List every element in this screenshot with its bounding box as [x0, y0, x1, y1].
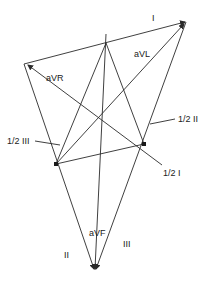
right-midpoint-dot — [142, 142, 146, 146]
einthoven-triangle-diagram: I aVL aVR 1/2 II 1/2 III 1/2 I aVF III I… — [0, 0, 210, 288]
label-lead-I: I — [152, 13, 155, 23]
label-lead-III: III — [123, 239, 131, 249]
label-half-II: 1/2 II — [178, 114, 198, 124]
label-lead-II: II — [64, 250, 69, 260]
label-aVF: aVF — [89, 228, 106, 238]
lead-II-vector — [24, 64, 94, 269]
apex-to-left-midpoint — [56, 43, 106, 164]
label-half-III: 1/2 III — [7, 136, 30, 146]
half-II-leader — [150, 119, 175, 124]
label-aVL: aVL — [134, 49, 150, 59]
half-III-leader — [35, 141, 60, 145]
lead-III-vector — [96, 22, 186, 269]
left-midpoint-dot — [54, 162, 58, 166]
label-half-I: 1/2 I — [163, 168, 181, 178]
aVL-vector — [56, 24, 184, 164]
label-aVR: aVR — [46, 73, 64, 83]
